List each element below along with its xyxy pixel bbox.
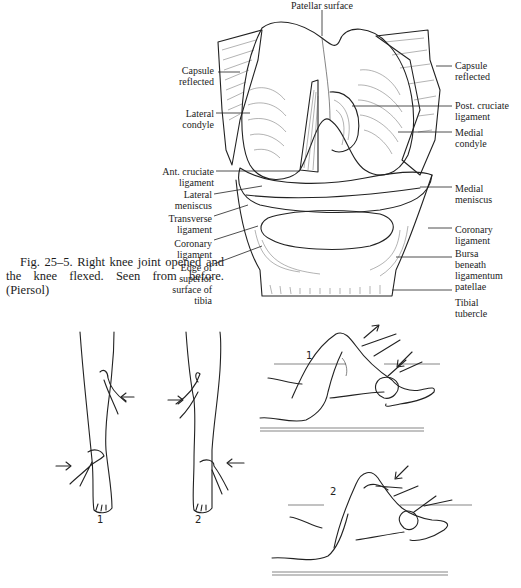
pcl-fibers	[334, 100, 349, 145]
tibial-tubercle-shading	[270, 285, 380, 294]
examiner-hand-knee	[364, 484, 418, 496]
supine-leg-number-1: 1	[306, 350, 312, 361]
examiner-hand-knee	[176, 373, 200, 418]
supine-leg-2	[272, 473, 472, 575]
medial-condyle-shading	[358, 70, 402, 154]
leader-transverse	[214, 205, 248, 216]
lateral-condyle-shading	[248, 88, 286, 158]
label-transverse-ligament: Transverse ligament	[150, 213, 212, 235]
label-ant-cruciate-ligament: Ant. cruciate ligament	[140, 166, 214, 188]
standing-leg-1	[70, 332, 126, 513]
examiner-hand-ankle	[70, 450, 104, 486]
label-capsule-reflected-right: Capsule reflected	[455, 60, 490, 82]
capsule-flap-left	[218, 30, 262, 165]
pressure-arrows-1	[56, 393, 134, 470]
post-cruciate-ligament-shape	[330, 92, 359, 152]
examiner-hand-ankle	[399, 496, 452, 530]
tibial-surface	[261, 211, 393, 250]
label-post-cruciate-ligament: Post. cruciate ligament	[455, 100, 509, 122]
supine-leg-1	[260, 333, 440, 431]
label-medial-meniscus: Medial meniscus	[455, 183, 492, 205]
standing-leg-number-1: 1	[97, 514, 103, 525]
label-bursa-beneath-ligamentum-patellae: Bursa beneath ligamentum patellae	[455, 248, 503, 292]
label-lateral-condyle: Lateral condyle	[160, 108, 214, 130]
examiner-hand-knee	[100, 370, 126, 414]
transverse-ligament-shape	[246, 188, 420, 198]
pressure-arrows-2	[168, 396, 244, 467]
bottom-caption-clipped	[60, 582, 480, 588]
leader-coronary-left	[214, 226, 258, 240]
patellar-groove	[322, 38, 330, 120]
label-medial-condyle: Medial condyle	[455, 127, 487, 149]
figure-caption: Fig. 25–5. Right knee joint opened and t…	[6, 255, 224, 297]
examiner-hand-ankle	[200, 460, 228, 494]
label-patellar-surface: Patellar surface	[282, 0, 362, 11]
pressure-arrow-2	[395, 466, 408, 479]
label-coronary-ligament-right: Coronary ligament	[455, 224, 493, 246]
tibia-shading	[255, 226, 408, 276]
capsule-right-hatching	[385, 38, 436, 132]
standing-leg-number-2: 2	[195, 514, 201, 525]
label-tibial-tubercle: Tibial tubercle	[455, 297, 487, 319]
standing-leg-2	[176, 332, 228, 513]
label-capsule-reflected-left: Capsule reflected	[160, 65, 214, 87]
lateral-condyle-shape	[242, 22, 414, 179]
capsule-flap-right	[376, 30, 440, 175]
label-lateral-meniscus: Lateral meniscus	[150, 189, 212, 211]
supine-leg-number-2: 2	[330, 486, 336, 497]
capsule-left-hatching	[222, 40, 256, 120]
